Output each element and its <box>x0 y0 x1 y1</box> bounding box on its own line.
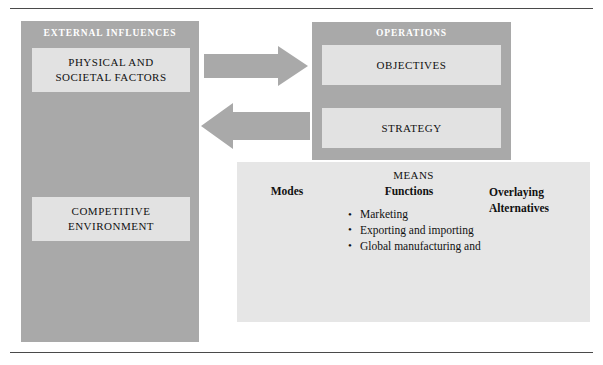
objectives-label: OBJECTIVES <box>377 58 447 73</box>
functions-column-header: Functions <box>339 185 479 197</box>
competitive-environment-box: COMPETITIVE ENVIRONMENT <box>32 197 190 241</box>
operations-panel: OPERATIONS OBJECTIVES STRATEGY <box>312 22 511 160</box>
top-divider-rule <box>10 8 593 9</box>
objectives-box: OBJECTIVES <box>322 45 501 85</box>
competitive-line-2: ENVIRONMENT <box>68 220 154 232</box>
physical-line-1: PHYSICAL AND <box>68 56 153 68</box>
functions-list: MarketingExporting and importingGlobal m… <box>348 207 558 255</box>
function-list-item: Global manufacturing and <box>348 239 558 255</box>
physical-societal-factors-box: PHYSICAL AND SOCIETAL FACTORS <box>32 48 190 92</box>
competitive-line-1: COMPETITIVE <box>72 205 151 217</box>
left-arrow-icon <box>201 103 310 149</box>
function-list-item: Exporting and importing <box>348 223 558 239</box>
bottom-divider-rule <box>10 352 593 353</box>
means-title: MEANS <box>237 169 590 181</box>
physical-line-2: SOCIETAL FACTORS <box>55 71 166 83</box>
means-panel: MEANS Modes Functions Overlaying Alterna… <box>237 162 590 322</box>
external-influences-panel: EXTERNAL INFLUENCES PHYSICAL AND SOCIETA… <box>21 21 199 342</box>
operations-title: OPERATIONS <box>312 28 511 38</box>
external-influences-title: EXTERNAL INFLUENCES <box>21 28 199 38</box>
function-list-item: Marketing <box>348 207 558 223</box>
strategy-label: STRATEGY <box>381 121 441 136</box>
modes-column-header: Modes <box>245 185 329 197</box>
competitive-environment-label: COMPETITIVE ENVIRONMENT <box>68 204 154 233</box>
overlaying-line-1: Overlaying <box>489 186 544 198</box>
right-arrow-icon <box>204 46 308 86</box>
physical-societal-factors-label: PHYSICAL AND SOCIETAL FACTORS <box>55 55 166 84</box>
strategy-box: STRATEGY <box>322 108 501 148</box>
